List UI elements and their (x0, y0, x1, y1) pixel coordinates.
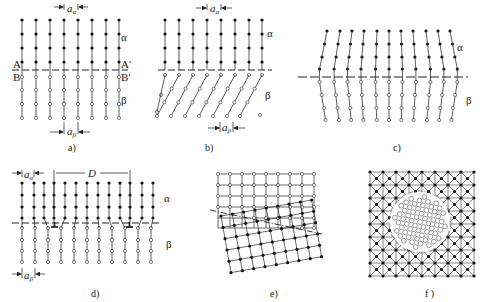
dislocation-spacing-label: D (87, 167, 96, 179)
phase-alpha-label: α (267, 27, 273, 39)
panel-d (12, 170, 162, 278)
caption-e: e) (270, 288, 278, 300)
spacing-alpha-label: aα (210, 2, 220, 16)
spacing-beta-label: aβ (67, 125, 77, 139)
spacing-beta-label: aβ (222, 121, 232, 135)
spacing-alpha-label: aα (24, 168, 34, 182)
panel-a-labels: aα aβ α β A B A′ B′ a) (13, 2, 131, 154)
phase-beta-label: β (166, 238, 172, 250)
label-A: A (13, 58, 21, 70)
caption-f: f ) (425, 288, 434, 300)
label-B: B (13, 71, 20, 83)
panel-b-labels: aα aβ α β b) (205, 2, 273, 154)
panel-b (155, 4, 272, 132)
phase-alpha-label: α (457, 41, 463, 53)
caption-b: b) (205, 142, 213, 154)
phase-alpha-label: α (164, 192, 170, 204)
phase-alpha-label: α (121, 31, 127, 43)
label-A-prime: A′ (121, 58, 131, 70)
label-B-prime: B′ (121, 71, 131, 83)
phase-beta-label: β (466, 94, 472, 106)
phase-beta-label: β (265, 89, 271, 101)
panel-e-labels: e) (270, 288, 278, 300)
panel-f-labels: f ) (425, 288, 434, 300)
panel-a (12, 4, 128, 134)
caption-c: c) (393, 142, 401, 154)
phase-interface-diagram: aα aβ α β A B A′ B′ a) aα aβ α β b) α β … (0, 0, 480, 302)
phase-beta-label: β (121, 94, 127, 106)
spacing-beta-label: aβ (24, 269, 34, 283)
panel-e (210, 172, 323, 274)
caption-d: d) (91, 288, 99, 300)
spacing-alpha-label: aα (67, 2, 77, 16)
panel-c-labels: α β c) (393, 41, 472, 154)
panel-f (368, 170, 475, 277)
panel-c (298, 29, 468, 121)
caption-a: a) (68, 142, 76, 154)
